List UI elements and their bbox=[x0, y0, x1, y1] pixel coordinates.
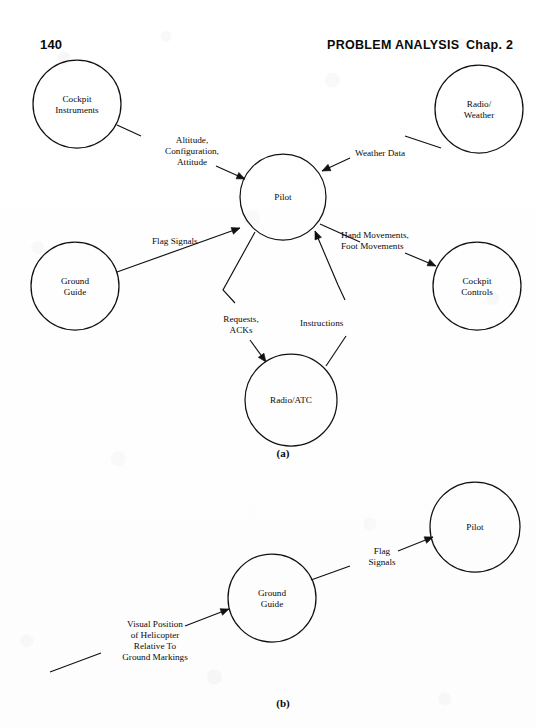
arrowhead-weather-data bbox=[322, 164, 331, 171]
node-cockpit-controls: CockpitControls bbox=[433, 242, 521, 330]
node-radio-weather: Radio/Weather bbox=[435, 65, 523, 153]
node-label-ground-guide: GroundGuide bbox=[61, 276, 89, 297]
node-label-ground-guide-b: GroundGuide bbox=[258, 588, 286, 609]
node-label-pilot: Pilot bbox=[274, 192, 292, 202]
node-label-radio-atc: Radio/ATC bbox=[270, 395, 312, 405]
figure-captions-group: (a)(b) bbox=[276, 447, 290, 710]
arrowhead-visual-position-input bbox=[220, 609, 229, 616]
edge-weather-data: Weather Data bbox=[322, 136, 441, 171]
node-pilot: Pilot bbox=[240, 154, 326, 240]
edge-line-requests-acks-seg1 bbox=[223, 232, 255, 303]
edge-line-weather-data-seg1 bbox=[405, 136, 441, 148]
node-ground-guide-b: GroundGuide bbox=[228, 554, 316, 642]
diagram-b-group: FlagSignalsVisual Positionof HelicopterR… bbox=[50, 482, 520, 672]
arrowhead-flag-signals-a bbox=[231, 228, 240, 235]
node-ground-guide: GroundGuide bbox=[31, 242, 119, 330]
edge-line-instructions-seg1 bbox=[326, 336, 346, 366]
arrowhead-hand-movements-foot-movements bbox=[427, 259, 436, 266]
edge-visual-position-input: Visual Positionof HelicopterRelative ToG… bbox=[50, 609, 229, 672]
node-pilot-b: Pilot bbox=[430, 482, 520, 572]
edge-label-altitude-configuration-attitude: Altitude,Configuration,Attitude bbox=[165, 135, 219, 167]
edge-hand-movements-foot-movements: Hand Movements,Foot Movements bbox=[320, 224, 436, 266]
edge-label-weather-data: Weather Data bbox=[355, 148, 405, 158]
edge-flag-signals-a: Flag Signals bbox=[117, 228, 240, 272]
edge-requests-acks: Requests,ACKs bbox=[223, 232, 266, 362]
diagram-a-group: Altitude,Configuration,AttitudeWeather D… bbox=[31, 60, 523, 446]
book-page: 140 PROBLEM ANALYSIS Chap. 2 Altitude,Co… bbox=[0, 0, 536, 728]
node-label-cockpit-instruments: CockpitInstruments bbox=[55, 94, 99, 115]
node-cockpit-instruments: CockpitInstruments bbox=[33, 60, 121, 148]
edge-label-hand-movements-foot-movements: Hand Movements,Foot Movements bbox=[341, 230, 409, 251]
figure-caption-b: (b) bbox=[276, 697, 290, 710]
node-label-radio-weather: Radio/Weather bbox=[464, 99, 494, 120]
edge-line-flag-signals-b-seg1 bbox=[311, 566, 350, 580]
edge-instructions: Instructions bbox=[300, 231, 346, 366]
node-radio-atc: Radio/ATC bbox=[245, 354, 337, 446]
node-label-pilot-b: Pilot bbox=[466, 522, 484, 532]
edge-label-instructions: Instructions bbox=[300, 318, 344, 328]
arrowhead-requests-acks bbox=[258, 353, 266, 362]
edge-label-flag-signals-b: FlagSignals bbox=[368, 546, 395, 567]
arrowhead-altitude-configuration-attitude bbox=[236, 172, 245, 179]
arrowhead-instructions bbox=[315, 231, 321, 240]
edge-label-visual-position-input: Visual Positionof HelicopterRelative ToG… bbox=[122, 619, 188, 662]
data-flow-diagram-figure: Altitude,Configuration,AttitudeWeather D… bbox=[0, 0, 536, 728]
edge-line-visual-position-input-seg1 bbox=[50, 653, 101, 672]
edge-label-flag-signals-a: Flag Signals bbox=[152, 236, 198, 246]
node-label-cockpit-controls: CockpitControls bbox=[461, 276, 493, 297]
edge-line-altitude-configuration-attitude-seg1 bbox=[117, 125, 141, 136]
edge-flag-signals-b: FlagSignals bbox=[311, 537, 433, 580]
edge-altitude-configuration-attitude: Altitude,Configuration,Attitude bbox=[117, 125, 245, 179]
edge-label-requests-acks: Requests,ACKs bbox=[223, 314, 258, 335]
figure-caption-a: (a) bbox=[277, 447, 290, 460]
edge-line-flag-signals-a-seg1 bbox=[117, 228, 240, 272]
